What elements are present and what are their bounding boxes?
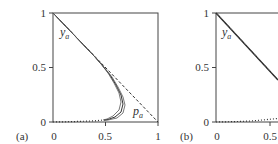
panel-b-xtick-label: 0 [214, 130, 220, 142]
panel-a-ytick-label: 0.5 [32, 61, 46, 73]
panel-b-label: (b) [180, 130, 193, 143]
panel-a-ytick-label: 0 [41, 116, 47, 128]
panel-b-xtick-label: 0.5 [263, 130, 277, 142]
panel-a-xtick-label: 0.5 [98, 130, 112, 142]
panel-a: 1 0.5 0 0 0.5 1 (a) ya pa [16, 7, 161, 143]
panel-b-ytick-label: 0 [204, 116, 210, 128]
panel-a-xtick-label: 0 [51, 130, 57, 142]
figure: 1 0.5 0 0 0.5 1 (a) ya pa 1 0.5 0 0 0.5 … [0, 0, 278, 144]
panel-a-ytick-label: 1 [41, 7, 47, 19]
panel-a-label: (a) [16, 130, 29, 143]
panel-b: 1 0.5 0 0 0.5 (b) ya [180, 7, 278, 143]
panel-a-ya-label: ya [59, 25, 69, 41]
panel-a-pa-label: pa [132, 104, 143, 120]
panel-b-ytick-label: 1 [204, 7, 210, 19]
panel-a-xtick-label: 1 [155, 130, 161, 142]
panel-b-ytick-label: 0.5 [195, 61, 209, 73]
panel-b-dotted-tail [216, 119, 278, 123]
